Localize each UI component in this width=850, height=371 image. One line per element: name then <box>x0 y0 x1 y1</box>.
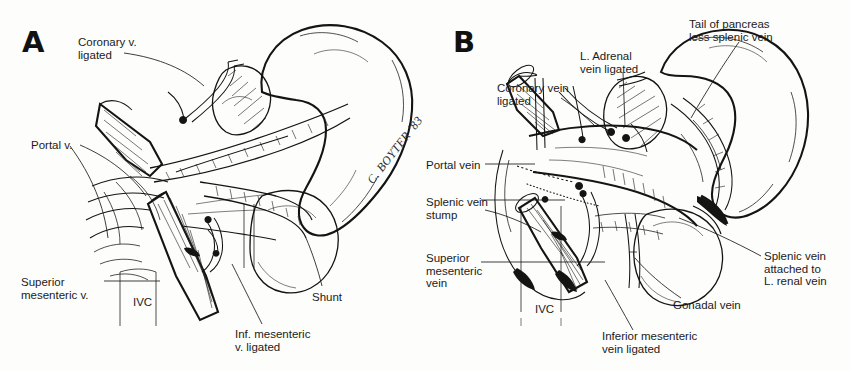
panel-a-letter: A <box>22 28 44 57</box>
duodenum-a <box>213 66 271 135</box>
label-shunt-a: Shunt <box>312 291 342 304</box>
leader-lines-a <box>70 53 322 324</box>
left-kidney-b <box>634 209 723 305</box>
pancreas-body-b <box>529 125 697 226</box>
label-ivc-a: IVC <box>133 296 152 309</box>
label-splenic-vein-attached-to-renal-b: Splenic vein attached to L. renal vein <box>764 250 827 288</box>
pancreas-body-a <box>176 136 288 240</box>
spleen-outline-b <box>661 30 808 218</box>
label-inferior-mesenteric-vein-ligated-b: Inferior mesenteric vein ligated <box>602 330 697 355</box>
imv-stub-a <box>202 216 223 272</box>
duodenum-b <box>604 76 667 148</box>
panel-b-letter: B <box>453 28 475 57</box>
pancreas-vessel-bed-b <box>671 98 732 210</box>
left-kidney-a <box>250 191 338 293</box>
spleen-outline-a <box>261 25 412 235</box>
label-portal-vein-b: Portal vein <box>426 159 480 172</box>
label-superior-mesenteric-vein-b: Superior mesenteric vein <box>426 252 482 290</box>
label-inferior-mesenteric-vein-ligated-a: Inf. mesenteric v. ligated <box>235 328 310 353</box>
collateral-veins-a <box>86 176 168 280</box>
peritoneal-reflection-b <box>593 213 665 240</box>
panel-b: B Tail of pancreas less splenic vein L. … <box>425 0 850 371</box>
smv-ivc-trunk-a <box>148 192 218 320</box>
panel-a: A Coronary v. ligated Portal v. Superior… <box>0 0 425 371</box>
label-l-adrenal-vein-ligated-b: L. Adrenal vein ligated <box>580 50 638 75</box>
panel-a-artwork <box>0 0 425 371</box>
label-ivc-b: IVC <box>535 303 554 316</box>
label-gonadal-vein-b: Gonadal vein <box>673 299 741 312</box>
label-superior-mesenteric-vein-a: Superior mesenteric v. <box>21 276 89 301</box>
label-splenic-vein-stump-b: Splenic vein stump <box>426 196 488 221</box>
ligated-vessel-stub-a <box>186 60 244 122</box>
label-tail-of-pancreas-b: Tail of pancreas less splenic vein <box>689 18 773 43</box>
label-coronary-vein-ligated-a: Coronary v. ligated <box>78 36 137 61</box>
label-coronary-vein-ligated-b: Coronary vein ligated <box>497 82 569 107</box>
label-portal-vein-a: Portal v. <box>31 139 72 152</box>
portal-vein-a <box>96 101 162 176</box>
figure-root: A Coronary v. ligated Portal v. Superior… <box>0 0 850 371</box>
